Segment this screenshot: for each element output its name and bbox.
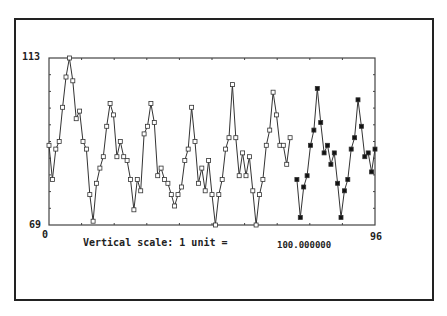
filled-square-marker [349, 147, 353, 151]
hollow-square-marker [74, 117, 78, 121]
x-axis-min-label: 0 [42, 229, 48, 240]
series-layer [47, 56, 377, 227]
series-observed [47, 56, 292, 227]
filled-square-marker [346, 178, 350, 182]
hollow-square-marker [220, 178, 224, 182]
hollow-square-marker [101, 155, 105, 159]
line-chart [0, 0, 447, 316]
hollow-square-marker [285, 162, 289, 166]
hollow-square-marker [247, 155, 251, 159]
hollow-square-marker [207, 159, 211, 163]
hollow-square-marker [275, 113, 279, 117]
hollow-square-marker [230, 83, 234, 87]
filled-square-marker [370, 170, 374, 174]
filled-square-marker [332, 151, 336, 155]
filled-square-marker [319, 121, 323, 125]
hollow-square-marker [268, 128, 272, 132]
hollow-square-marker [258, 193, 262, 197]
hollow-square-marker [64, 75, 68, 79]
hollow-square-marker [125, 159, 129, 163]
hollow-square-marker [213, 223, 217, 227]
filled-square-marker [326, 143, 330, 147]
hollow-square-marker [173, 204, 177, 208]
hollow-square-marker [200, 166, 204, 170]
hollow-square-marker [67, 56, 71, 60]
filled-square-marker [353, 136, 357, 140]
hollow-square-marker [88, 193, 92, 197]
hollow-square-marker [115, 155, 119, 159]
plot-axes [49, 58, 375, 225]
hollow-square-marker [271, 90, 275, 94]
filled-square-marker [336, 181, 340, 185]
filled-square-marker [366, 151, 370, 155]
hollow-square-marker [156, 174, 160, 178]
hollow-square-marker [183, 159, 187, 163]
plot-box [49, 58, 375, 225]
hollow-square-marker [241, 151, 245, 155]
hollow-square-marker [91, 219, 95, 223]
hollow-square-marker [149, 102, 153, 106]
filled-square-marker [329, 162, 333, 166]
series-forecast [295, 86, 377, 219]
hollow-square-marker [146, 124, 150, 128]
vertical-scale-value: 100.000000 [277, 240, 331, 250]
hollow-square-marker [163, 178, 167, 182]
hollow-square-marker [78, 109, 82, 113]
filled-square-marker [373, 147, 377, 151]
hollow-square-marker [169, 193, 173, 197]
filled-square-marker [322, 151, 326, 155]
y-axis-max-label: 113 [22, 51, 40, 62]
hollow-square-marker [152, 121, 156, 125]
hollow-square-marker [179, 185, 183, 189]
hollow-square-marker [84, 147, 88, 151]
hollow-square-marker [50, 178, 54, 182]
hollow-square-marker [261, 178, 265, 182]
y-axis-min-label: 69 [29, 219, 41, 230]
hollow-square-marker [244, 174, 248, 178]
hollow-square-marker [54, 147, 58, 151]
filled-square-marker [342, 189, 346, 193]
hollow-square-marker [112, 113, 116, 117]
hollow-square-marker [254, 223, 258, 227]
hollow-square-marker [57, 140, 61, 144]
filled-square-marker [295, 178, 299, 182]
hollow-square-marker [186, 147, 190, 151]
hollow-square-marker [135, 178, 139, 182]
hollow-square-marker [159, 166, 163, 170]
hollow-square-marker [139, 189, 143, 193]
filled-square-marker [363, 155, 367, 159]
filled-square-marker [305, 174, 309, 178]
filled-square-marker [312, 128, 316, 132]
hollow-square-marker [118, 140, 122, 144]
vertical-scale-caption: Vertical scale: 1 unit = [83, 237, 228, 248]
x-axis-max-label: 96 [370, 231, 382, 242]
hollow-square-marker [234, 136, 238, 140]
filled-square-marker [359, 124, 363, 128]
hollow-square-marker [281, 143, 285, 147]
hollow-square-marker [108, 102, 112, 106]
hollow-square-marker [98, 166, 102, 170]
filled-square-marker [298, 215, 302, 219]
hollow-square-marker [251, 189, 255, 193]
hollow-square-marker [47, 143, 51, 147]
filled-square-marker [309, 143, 313, 147]
hollow-square-marker [105, 124, 109, 128]
hollow-square-marker [95, 181, 99, 185]
hollow-square-marker [210, 193, 214, 197]
filled-square-marker [339, 215, 343, 219]
hollow-square-marker [237, 174, 241, 178]
hollow-square-marker [81, 140, 85, 144]
hollow-square-marker [196, 181, 200, 185]
hollow-square-marker [132, 208, 136, 212]
hollow-square-marker [176, 193, 180, 197]
hollow-square-marker [224, 147, 228, 151]
hollow-square-marker [61, 105, 65, 109]
hollow-square-marker [227, 136, 231, 140]
hollow-square-marker [193, 140, 197, 144]
hollow-square-marker [142, 132, 146, 136]
filled-square-marker [302, 185, 306, 189]
hollow-square-marker [203, 189, 207, 193]
hollow-square-marker [166, 181, 170, 185]
hollow-square-marker [71, 79, 75, 83]
hollow-square-marker [288, 136, 292, 140]
